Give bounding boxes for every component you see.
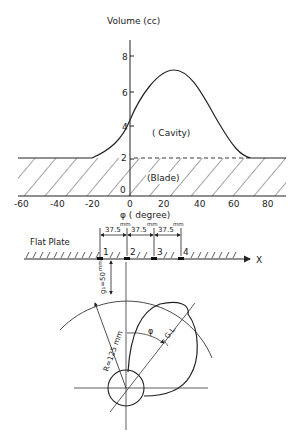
radius-label-group: R=125 mm [101, 329, 124, 372]
volume-chart: Volume (cc) 8 6 4 2 0 -60 -40 -20 0 20 4… [14, 16, 286, 220]
sensor-3-label: 3 [157, 247, 163, 257]
x-tick-label: -60 [14, 199, 29, 209]
x-tick-label: 40 [194, 199, 206, 209]
sensor-2-label: 2 [130, 247, 136, 257]
x-tick-label: 0 [127, 199, 133, 209]
radius-label: R=125 mm [101, 329, 124, 372]
blade-outline [128, 302, 197, 396]
x-tick-label: 80 [262, 199, 274, 209]
x-ticks: -60 -40 -20 0 20 40 60 80 [14, 199, 274, 209]
unit-mm: mm [147, 221, 158, 227]
pressure-sensors: 1 2 3 4 [97, 247, 189, 260]
gl-label-group: G.L. [163, 324, 178, 340]
y-ticks [130, 56, 134, 159]
cavity-volume-curve [92, 70, 251, 158]
gap-unit: mm [97, 260, 103, 271]
sensor-1-label: 1 [103, 247, 109, 257]
gl-label: G.L. [163, 324, 178, 340]
sensor-4-marker [178, 257, 184, 260]
gap-label-group: g₁=50 mm [97, 260, 107, 294]
x-tick-label: -40 [50, 199, 65, 209]
x-tick-label: -20 [85, 199, 100, 209]
blade-label: (Blade) [147, 173, 179, 183]
y-tick-2: 2 [121, 153, 127, 163]
rotor-diagram: R=125 mm φ G.L. [60, 262, 212, 430]
x-axis-title: φ ( degree) [120, 210, 170, 220]
y-tick-8: 8 [122, 52, 128, 62]
y-tick-0: 0 [120, 185, 126, 195]
spacing-2-3: 37.5 [131, 226, 147, 234]
flat-plate-diagram: Flat Plate X 1 2 3 4 [24, 221, 262, 294]
sensor-4-label: 4 [183, 247, 189, 257]
flat-plate-label: Flat Plate [30, 237, 70, 247]
x-axis-label: X [256, 255, 262, 265]
spacing-3-4: 37.5 [158, 226, 174, 234]
gap-label: g₁=50 [99, 272, 107, 294]
y-axis-title: Volume (cc) [107, 16, 160, 26]
y-tick-6: 6 [122, 88, 128, 98]
unit-mm: mm [120, 221, 131, 227]
sensor-2-marker [124, 257, 130, 260]
x-tick-label: 20 [158, 199, 170, 209]
x-tick-label: 60 [228, 199, 240, 209]
diagram-canvas: Volume (cc) 8 6 4 2 0 -60 -40 -20 0 20 4… [0, 0, 304, 432]
sensor-3-marker [151, 257, 157, 260]
phi-label: φ [148, 327, 153, 336]
cavity-label: ( Cavity) [152, 128, 190, 138]
spacing-labels: 37.5 mm 37.5 mm 37.5 mm [105, 221, 184, 234]
unit-mm: mm [173, 221, 184, 227]
spacing-1-2: 37.5 [105, 226, 121, 234]
